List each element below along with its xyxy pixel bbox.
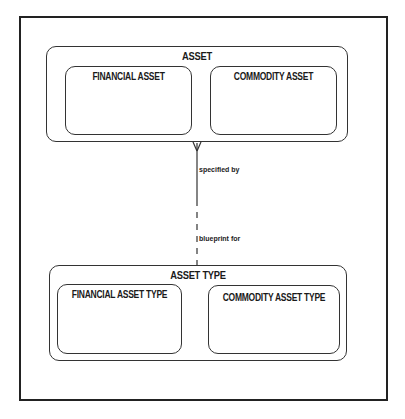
- relationship-line[interactable]: [0, 0, 405, 419]
- relationship-label-specified-by: specified by: [199, 166, 239, 173]
- relationship-label-blueprint-for: blueprint for: [199, 235, 240, 242]
